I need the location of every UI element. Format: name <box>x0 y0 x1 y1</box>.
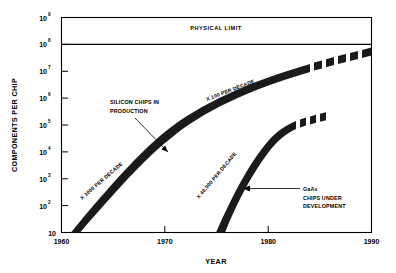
silicon-callout-line1: SILICON CHIPS IN <box>110 99 159 105</box>
y-tick-6-exp: 3 <box>48 173 51 178</box>
y-tick-2-base: 10 <box>39 68 47 75</box>
silicon-callout-line2: PRODUCTION <box>110 108 148 114</box>
x-axis-title: YEAR <box>205 257 227 266</box>
y-tick-3-base: 10 <box>39 95 47 102</box>
y-tick-7-exp: 2 <box>48 200 51 205</box>
x-tick-1970: 1970 <box>157 238 173 245</box>
gaas-callout-line3: DEVELOPMENT <box>303 203 346 209</box>
x-tick-1980: 1980 <box>260 238 276 245</box>
y-tick-1-exp: 8 <box>48 38 51 43</box>
y-tick-5-exp: 4 <box>48 146 51 151</box>
y-axis-title: COMPONENTS PER CHIP <box>10 78 19 172</box>
x-tick-1990: 1990 <box>364 238 380 245</box>
y-tick-7-base: 10 <box>39 203 47 210</box>
y-tick-4-exp: 5 <box>48 119 51 124</box>
y-tick-1-base: 10 <box>39 41 47 48</box>
physical-limit-label: PHYSICAL LIMIT <box>190 25 241 31</box>
y-tick-5-base: 10 <box>39 149 47 156</box>
x-tick-1960: 1960 <box>54 238 70 245</box>
y-tick-0-exp: 9 <box>48 12 51 17</box>
y-tick-6-base: 10 <box>39 176 47 183</box>
y-tick-3-exp: 6 <box>48 92 51 97</box>
y-tick-0-base: 10 <box>39 15 47 22</box>
chip-complexity-chart: PHYSICAL LIMIT 10 9 10 8 10 7 10 6 10 5 … <box>0 0 396 273</box>
gaas-callout-line2: CHIPS UNDER <box>303 195 342 201</box>
y-tick-2-exp: 7 <box>48 65 51 70</box>
y-tick-4-base: 10 <box>39 122 47 129</box>
gaas-callout-line1: GaAs <box>303 186 318 192</box>
y-tick-8-base: 10 <box>48 230 56 237</box>
